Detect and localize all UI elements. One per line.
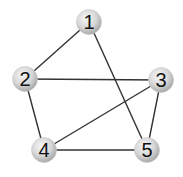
- edge-1-2: [25, 22, 89, 79]
- node-label: 2: [19, 68, 30, 90]
- node-label: 5: [141, 139, 152, 161]
- node-1: 1: [77, 10, 102, 35]
- node-5: 5: [135, 138, 160, 163]
- graph-diagram: 12345: [0, 0, 183, 177]
- node-label: 1: [83, 11, 94, 33]
- edge-1-5: [89, 22, 147, 150]
- node-4: 4: [32, 138, 57, 163]
- node-3: 3: [149, 68, 174, 93]
- graph-canvas: 12345: [0, 0, 183, 177]
- node-label: 3: [155, 69, 166, 91]
- node-2: 2: [13, 67, 38, 92]
- node-label: 4: [38, 139, 49, 161]
- edge-2-3: [25, 79, 161, 80]
- nodes-layer: 12345: [13, 10, 174, 163]
- edges-layer: [25, 22, 161, 150]
